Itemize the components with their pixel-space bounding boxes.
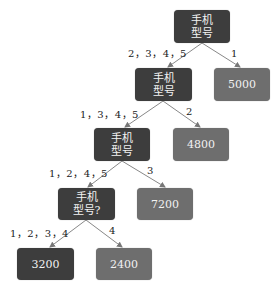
- leaf-7200-label: 7200: [151, 198, 179, 211]
- edge-label-n4-3200: 1，2，3，4: [10, 225, 69, 240]
- edge-label-n2-4800: 2: [186, 106, 193, 117]
- edge-label-n3-7200: 3: [147, 165, 154, 176]
- leaf-2400: 2400: [96, 248, 152, 280]
- leaf-5000-label: 5000: [228, 78, 256, 91]
- leaf-2400-label: 2400: [110, 258, 138, 271]
- edge-label-n3-n4: 1，2，4，5: [49, 165, 108, 180]
- leaf-4800-label: 4800: [187, 138, 215, 151]
- node-level3: 手机 型号: [94, 128, 150, 161]
- edge-n2-4800: [163, 101, 200, 127]
- edge-label-n4-2400: 4: [109, 225, 116, 236]
- node-level3-label: 手机 型号: [111, 132, 133, 158]
- node-level2-label: 手机 型号: [153, 72, 175, 98]
- node-level4-label: 手机 型号?: [73, 191, 101, 217]
- edge-label-root-5000: 1: [231, 48, 238, 59]
- leaf-4800: 4800: [173, 128, 229, 161]
- edge-label-root-n2: 2，3，4，5: [128, 45, 187, 60]
- node-level4: 手机 型号?: [58, 188, 115, 220]
- leaf-7200: 7200: [137, 188, 193, 220]
- leaf-3200: 3200: [17, 248, 74, 280]
- root-node: 手机 型号: [174, 10, 230, 43]
- node-level2: 手机 型号: [135, 68, 192, 101]
- edge-n3-7200: [122, 161, 165, 187]
- leaf-3200-label: 3200: [32, 258, 60, 271]
- leaf-5000: 5000: [214, 68, 270, 101]
- root-node-label: 手机 型号: [191, 14, 213, 40]
- edge-n4-2400: [86, 220, 122, 247]
- edge-label-n2-n3: 1，3，4，5: [80, 106, 139, 121]
